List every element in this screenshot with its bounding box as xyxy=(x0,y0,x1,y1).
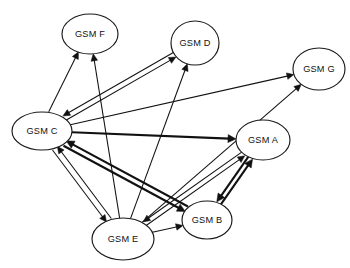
edge-C-to-A xyxy=(72,132,229,138)
arrowhead-C-to-F xyxy=(72,52,78,60)
gsm-relation-graph: GSM FGSM DGSM GGSM CGSM AGSM BGSM E xyxy=(0,0,350,268)
node-f[interactable]: GSM F xyxy=(62,14,118,54)
node-label-e: GSM E xyxy=(108,234,138,244)
arrowhead-E-to-B xyxy=(175,224,183,230)
edge-C-to-D xyxy=(66,60,171,121)
node-label-g: GSM G xyxy=(303,64,334,74)
node-label-f: GSM F xyxy=(75,29,105,39)
edge-C-to-E xyxy=(52,150,103,217)
arrowhead-E-to-D xyxy=(182,64,188,72)
edge-E-to-F xyxy=(94,60,120,219)
node-label-c: GSM C xyxy=(27,126,58,136)
node-b[interactable]: GSM B xyxy=(182,201,232,239)
arrowhead-C-to-G xyxy=(286,73,294,79)
node-label-d: GSM D xyxy=(180,38,211,48)
edge-B-to-A xyxy=(221,165,249,205)
edge-C-to-F xyxy=(49,57,76,112)
node-e[interactable]: GSM E xyxy=(92,218,154,260)
arrowhead-E-to-A xyxy=(237,156,245,163)
arrowhead-C-to-E xyxy=(100,215,107,223)
node-c[interactable]: GSM C xyxy=(12,112,72,150)
edge-B-to-C xyxy=(72,144,188,206)
diagram-canvas: GSM FGSM DGSM GGSM CGSM AGSM BGSM E xyxy=(0,0,350,268)
node-g[interactable]: GSM G xyxy=(293,48,345,90)
edge-E-to-B xyxy=(152,227,177,233)
edge-C-to-G xyxy=(70,76,288,125)
node-d[interactable]: GSM D xyxy=(171,21,219,65)
node-label-b: GSM B xyxy=(192,215,222,225)
arrowhead-E-to-F xyxy=(91,54,98,61)
node-label-a: GSM A xyxy=(248,135,279,145)
node-a[interactable]: GSM A xyxy=(236,120,290,160)
edge-D-to-C xyxy=(68,52,173,113)
